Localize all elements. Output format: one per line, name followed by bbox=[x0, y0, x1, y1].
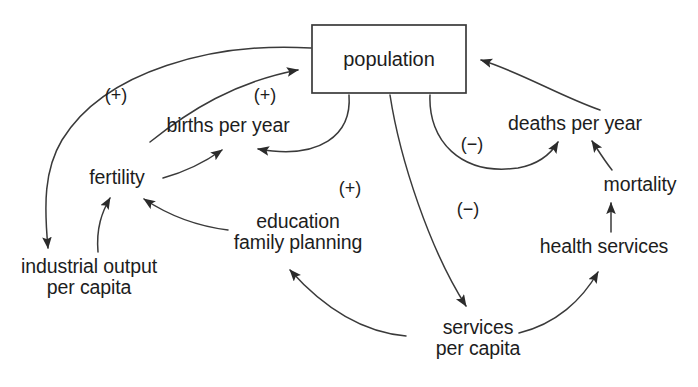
edge-education-to-fertility bbox=[144, 199, 228, 230]
node-label-industrial-output-per-capita: industrial output per capita bbox=[21, 256, 157, 298]
causal-loop-diagram: population births per year deaths per ye… bbox=[0, 0, 698, 387]
polarity-plus-population-births: (+) bbox=[254, 86, 277, 104]
edge-services-to-education bbox=[290, 270, 406, 336]
edge-industrial-output-to-fertility bbox=[98, 198, 110, 252]
node-label-population: population bbox=[343, 49, 434, 70]
node-label-mortality: mortality bbox=[604, 174, 677, 195]
node-label-education-family-planning: education family planning bbox=[234, 211, 363, 253]
polarity-minus-population-deaths: (−) bbox=[461, 135, 484, 153]
polarity-minus-population-services: (−) bbox=[457, 200, 480, 218]
edge-population-to-services bbox=[390, 95, 466, 306]
edge-mortality-to-deaths bbox=[592, 141, 612, 170]
polarity-plus-births-population: (+) bbox=[105, 86, 128, 104]
node-label-deaths-per-year: deaths per year bbox=[508, 113, 642, 134]
node-label-births-per-year: births per year bbox=[166, 115, 289, 136]
node-label-health-services: health services bbox=[540, 236, 669, 257]
edge-services-to-health-services bbox=[519, 272, 598, 333]
node-label-services-per-capita: services per capita bbox=[436, 317, 521, 359]
edge-fertility-to-births bbox=[163, 150, 222, 178]
polarity-plus-education-fertility: (+) bbox=[339, 179, 362, 197]
node-label-fertility: fertility bbox=[89, 167, 144, 188]
edge-deaths-to-population bbox=[481, 60, 600, 110]
